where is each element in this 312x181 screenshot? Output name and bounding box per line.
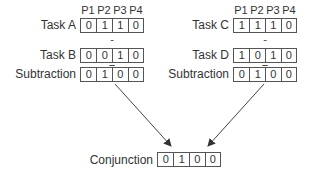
cell: 1 (173, 153, 189, 166)
conjunction-grid: 0 1 0 0 (157, 152, 221, 167)
conjunction-label: Conjunction (90, 153, 153, 167)
right-arrow (208, 84, 264, 146)
cell: 0 (158, 153, 173, 166)
arrows (0, 0, 312, 181)
cell: 0 (189, 153, 205, 166)
left-arrow (115, 84, 171, 146)
cell: 0 (205, 153, 221, 166)
